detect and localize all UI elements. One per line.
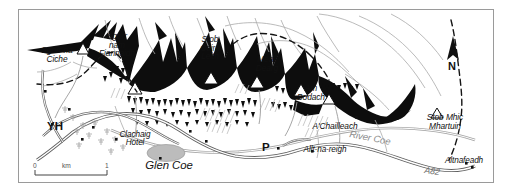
north-label: N [448, 60, 456, 72]
place-label-altnafeadh: Altnafeadh [433, 157, 494, 165]
map-page: Sgorr na Ciche Sgorr nam Fiannaidh Stob … [0, 0, 508, 192]
place-label-clachaig-hotel: Clachaig Hotel [108, 131, 162, 148]
north-arrow-icon [447, 36, 459, 60]
scale-unit-label: km [62, 162, 71, 169]
parking-symbol: P [262, 141, 270, 153]
youth-hostel-symbol: YH [47, 120, 63, 132]
valley-label-glen-coe: Glen Coe [124, 160, 214, 172]
scale-max-label: 1 [105, 162, 109, 169]
place-label-allt-na-reigh: Allt-na-reigh [291, 146, 359, 154]
scale-min-label: 0 [33, 162, 37, 169]
peak-label-sgorr-nam-fiannaidh: Sgorr nam Fiannaidh [81, 32, 153, 58]
peak-label-stob-coire-leith: Stob Coire Leith [184, 35, 236, 61]
scale-bar-graphic [35, 170, 107, 175]
map-frame: Sgorr na Ciche Sgorr nam Fiannaidh Stob … [18, 9, 494, 183]
peak-label-am-bodach: Am Bodach [284, 84, 338, 101]
peak-label-stob-mhic-mhartuin: Stob Mhic Mhartuin [411, 113, 479, 130]
peak-label-meall-dearg: Meall Dearg [240, 55, 294, 72]
